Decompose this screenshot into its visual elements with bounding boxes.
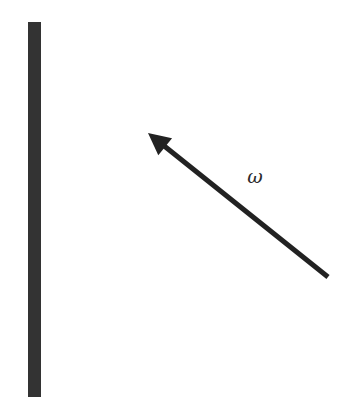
omega-label: ω <box>247 165 263 187</box>
diagram-canvas: ω <box>0 0 351 418</box>
vertical-wall-bar <box>28 22 41 397</box>
background <box>0 0 351 418</box>
